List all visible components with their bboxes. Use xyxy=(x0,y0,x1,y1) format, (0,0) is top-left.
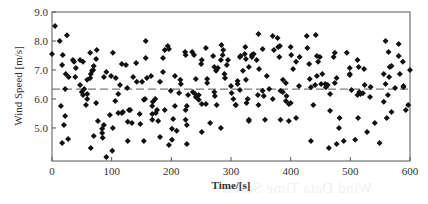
x-tick-label: 100 xyxy=(103,165,120,177)
y-tick-label: 7.0 xyxy=(34,64,48,76)
data-point xyxy=(127,107,133,113)
data-point xyxy=(64,32,70,38)
data-point xyxy=(185,92,191,98)
data-point xyxy=(149,117,155,123)
data-point xyxy=(184,141,190,147)
data-point xyxy=(62,86,68,92)
data-point xyxy=(133,60,139,66)
data-point xyxy=(233,102,239,108)
x-tick-label: 0 xyxy=(49,165,55,177)
data-point xyxy=(130,74,136,80)
data-point xyxy=(385,92,391,98)
x-tick-label: 600 xyxy=(402,165,419,177)
data-point xyxy=(101,74,107,80)
data-point xyxy=(218,42,224,48)
x-tick-label: 400 xyxy=(282,165,299,177)
data-point xyxy=(315,59,321,65)
data-point xyxy=(270,96,276,102)
data-point xyxy=(52,23,58,29)
data-point xyxy=(392,85,398,91)
data-point xyxy=(58,103,64,109)
data-point xyxy=(230,96,236,102)
data-point xyxy=(110,50,116,56)
data-point xyxy=(93,100,99,106)
data-point xyxy=(372,120,378,126)
data-point xyxy=(204,80,210,86)
data-point xyxy=(361,66,367,72)
data-point xyxy=(246,64,252,70)
data-point xyxy=(332,80,338,86)
x-axis-ticks: 0100200300400500600 xyxy=(49,157,419,177)
data-point xyxy=(112,98,118,104)
data-point xyxy=(297,54,303,60)
data-point xyxy=(218,57,224,63)
data-point xyxy=(349,87,355,93)
data-point xyxy=(327,108,333,114)
data-point xyxy=(139,79,145,85)
data-point xyxy=(304,33,310,39)
data-point xyxy=(386,49,392,55)
data-point xyxy=(288,52,294,58)
y-axis-label: Wind Speed [m/s] xyxy=(12,46,24,126)
data-point xyxy=(91,63,97,69)
data-point xyxy=(103,69,109,75)
data-point xyxy=(242,44,248,50)
data-point xyxy=(354,57,360,63)
data-point xyxy=(386,74,392,80)
data-point xyxy=(59,62,65,68)
data-point xyxy=(149,103,155,109)
data-point xyxy=(65,136,71,142)
data-point xyxy=(288,44,294,50)
data-point xyxy=(143,55,149,61)
data-point xyxy=(203,101,209,107)
data-point xyxy=(119,61,125,67)
data-point xyxy=(237,87,243,93)
data-point xyxy=(172,103,178,109)
data-point xyxy=(255,31,261,37)
data-point xyxy=(218,125,224,131)
data-point xyxy=(137,121,143,127)
data-point xyxy=(84,96,90,102)
data-point xyxy=(224,62,230,68)
data-point xyxy=(109,148,115,154)
data-point xyxy=(290,66,296,72)
data-point xyxy=(93,56,99,62)
data-point xyxy=(396,41,402,47)
data-point xyxy=(306,61,312,67)
data-point xyxy=(141,138,147,144)
data-point xyxy=(347,72,353,78)
data-point xyxy=(160,69,166,75)
data-point xyxy=(49,51,55,57)
data-point xyxy=(125,138,131,144)
x-tick-label: 500 xyxy=(342,165,359,177)
data-point xyxy=(262,117,268,123)
data-point xyxy=(364,129,370,135)
data-point xyxy=(73,65,79,71)
data-point xyxy=(256,66,262,72)
data-point xyxy=(87,50,93,56)
data-point xyxy=(304,45,310,51)
data-point xyxy=(220,52,226,58)
data-point xyxy=(229,90,235,96)
data-point xyxy=(243,77,249,83)
data-point xyxy=(296,83,302,89)
data-point xyxy=(336,125,342,131)
wind-speed-scatter-chart: 0100200300400500600 5.06.07.08.09.0 Time… xyxy=(0,0,428,204)
data-point xyxy=(347,65,353,71)
data-point xyxy=(123,62,129,68)
data-point xyxy=(162,107,168,113)
data-point xyxy=(184,122,190,128)
data-point xyxy=(362,82,368,88)
data-point xyxy=(389,109,395,115)
data-point xyxy=(352,137,358,143)
data-point xyxy=(99,130,105,136)
data-point xyxy=(314,73,320,79)
data-point xyxy=(326,145,332,151)
data-point xyxy=(367,94,373,100)
data-point xyxy=(397,71,403,77)
data-point xyxy=(307,76,313,82)
y-tick-label: 8.0 xyxy=(34,35,48,47)
data-point xyxy=(207,120,213,126)
data-point xyxy=(222,75,228,81)
data-point xyxy=(264,73,270,79)
